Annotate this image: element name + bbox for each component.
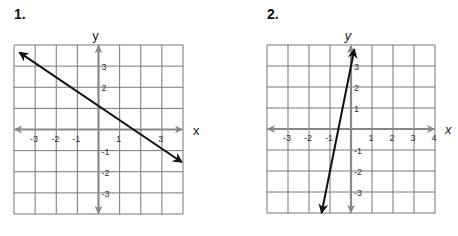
y-tick-label: -3 [354, 188, 362, 198]
x-tick-label: -3 [283, 133, 291, 143]
x-tick-label: -1 [325, 133, 333, 143]
y-axis-label: y [344, 28, 353, 43]
y-tick-label: -2 [354, 167, 362, 177]
y-tick-label: -1 [354, 146, 362, 156]
y-tick-label: 3 [354, 62, 359, 72]
graphed-line [322, 49, 355, 213]
x-tick-label: 2 [389, 133, 394, 143]
x-tick-label: 1 [368, 133, 373, 143]
graph-2: -3-2-11234321-1-2-3xy [0, 0, 458, 236]
y-tick-label: 1 [354, 104, 359, 114]
x-tick-label: 3 [410, 133, 415, 143]
x-tick-label: -2 [304, 133, 312, 143]
y-tick-label: 2 [354, 83, 359, 93]
x-tick-label: 4 [431, 133, 436, 143]
x-axis-label: x [444, 122, 452, 137]
